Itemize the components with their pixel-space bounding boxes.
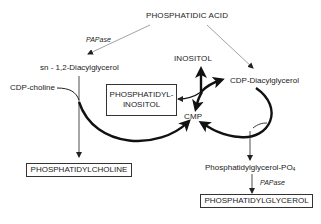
glycerol-input-curve xyxy=(253,123,267,128)
enzyme-papase-bottom: PAPase xyxy=(260,178,285,188)
pathway-diagram: PHOSPHATIDIC ACID PAPase sn - 1,2-Diacyl… xyxy=(0,0,321,224)
pgp-label-subscript: 4 xyxy=(293,166,296,172)
enzyme-papase-top: PAPase xyxy=(86,35,111,45)
node-diacylglycerol: sn - 1,2-Diacylglycerol xyxy=(40,63,119,73)
pgp-label-main: Phosphatidylglycerol-PO xyxy=(205,163,293,172)
box-phosphatidylcholine: PHOSPHATIDYLCHOLINE xyxy=(26,163,132,177)
phosphatidylinositol-line2: INOSITOL xyxy=(107,100,176,110)
node-cmp: CMP xyxy=(184,112,202,122)
node-phosphatidic-acid: PHOSPHATIDIC ACID xyxy=(146,11,228,21)
cmp-release-curve-right xyxy=(202,88,272,137)
phosphatidylglycerol-label: PHOSPHATIDYLGLYCEROL xyxy=(204,196,308,205)
node-cdp-diacylglycerol: CDP-Diacylglycerol xyxy=(230,76,299,86)
phosphatidylcholine-label: PHOSPHATIDYLCHOLINE xyxy=(31,165,128,174)
cdp-choline-input-curve xyxy=(57,88,79,100)
node-cdp-choline: CDP-choline xyxy=(10,83,55,93)
node-phosphatidylglycerol-po4: Phosphatidylglycerol-PO4 xyxy=(205,163,295,174)
phosphatidylinositol-line1: PHOSPHATIDYL- xyxy=(107,90,176,100)
arrow-pa-to-cdpdag xyxy=(207,25,253,68)
arrow-to-phosphatidylinositol xyxy=(178,92,201,99)
arrow-to-cdpdag-junction xyxy=(201,80,221,92)
box-phosphatidylinositol: PHOSPHATIDYL- INOSITOL xyxy=(106,84,177,116)
node-inositol: INOSITOL xyxy=(174,54,212,64)
box-phosphatidylglycerol: PHOSPHATIDYLGLYCEROL xyxy=(200,194,313,208)
